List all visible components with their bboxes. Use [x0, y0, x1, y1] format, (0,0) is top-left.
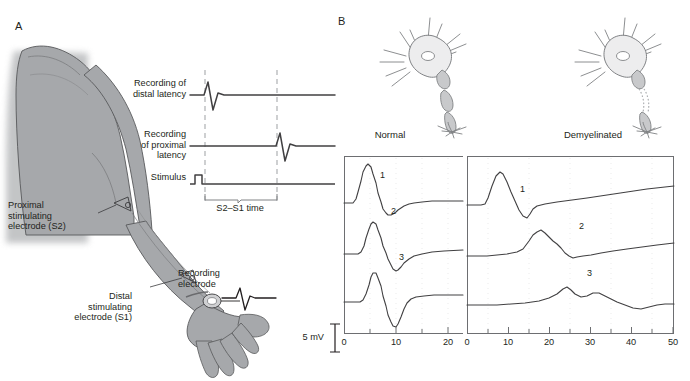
- trace-label-normal-3: 3: [399, 252, 404, 262]
- trace-normal-2: [344, 222, 463, 271]
- xtick-normal-20: 20: [438, 337, 458, 348]
- xtick-normal-10: 10: [386, 337, 406, 348]
- trace-stimulus: [190, 175, 335, 184]
- xtick-demy-0: 0: [457, 337, 477, 348]
- trace-normal-3: [344, 273, 463, 327]
- panel-b-letter: B: [338, 15, 345, 27]
- trace-distal: [190, 82, 335, 110]
- trace-label-demyelinated-2: 2: [579, 221, 584, 231]
- scale-bar-label: 5 mV: [288, 332, 324, 343]
- xtick-demy-30: 30: [580, 337, 600, 348]
- xtick-demy-40: 40: [621, 337, 641, 348]
- xtick-demy-20: 20: [539, 337, 559, 348]
- demyelinated-segment: [639, 89, 649, 112]
- trace-label-demyelinated-3: 3: [587, 268, 592, 278]
- trace-label-demyelinated-1: 1: [520, 184, 525, 194]
- panel-a-letter: A: [15, 20, 22, 32]
- trace-label-normal-1: 1: [380, 170, 385, 180]
- panel-a-trace-diagram: [190, 60, 335, 210]
- xtick-normal-0: 0: [334, 337, 354, 348]
- trace-proximal: [190, 133, 335, 161]
- label-stimulus-trace: Stimulus: [118, 172, 186, 183]
- label-distal-electrode: Distal stimulating electrode (S1): [46, 291, 132, 323]
- neuron-demyelinated-illustration: [565, 10, 690, 135]
- recording-electrode-waveform: [222, 283, 276, 313]
- trace-label-normal-2: 2: [391, 206, 396, 216]
- label-distal-latency-trace: Recording of distal latency: [118, 78, 186, 99]
- label-proximal-electrode: Proximal stimulating electrode (S2): [8, 200, 86, 232]
- neuron-label-normal: Normal: [350, 130, 430, 141]
- chart-normal: 1 2 3 0 10 20: [344, 156, 463, 334]
- label-proximal-latency-trace: Recording of proximal latency: [118, 129, 186, 161]
- interval-bracket: [205, 194, 277, 203]
- trace-demyelinated-1: [467, 172, 674, 218]
- neuron-normal-illustration: [370, 10, 500, 135]
- trace-normal-1: [344, 164, 463, 215]
- xtick-demy-10: 10: [498, 337, 518, 348]
- xtick-demy-50: 50: [663, 337, 683, 348]
- figure-root: A: [0, 0, 690, 381]
- trace-demyelinated-2: [467, 230, 674, 258]
- trace-demyelinated-3: [467, 287, 674, 309]
- chart-demyelinated: 1 2 3 0 10 20 30 40 50: [467, 156, 674, 334]
- label-s2-s1-time: S2–S1 time: [180, 203, 300, 214]
- neuron-label-demyelinated: Demyelinated: [545, 130, 641, 141]
